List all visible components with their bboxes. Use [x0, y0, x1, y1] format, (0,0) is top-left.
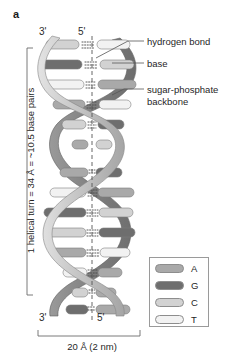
legend-swatch-g: [155, 281, 184, 290]
legend-label-g: G: [191, 281, 198, 291]
legend-label-c: C: [191, 298, 198, 308]
legend-swatch-c: [155, 298, 184, 307]
legend-swatch-a: [155, 264, 184, 273]
base-legend: A G C T: [149, 257, 209, 327]
legend-item-g: G: [155, 280, 207, 291]
legend-item-t: T: [155, 314, 207, 325]
legend-label-a: A: [191, 264, 197, 274]
legend-item-a: A: [155, 263, 207, 274]
label-hydrogen-bond: hydrogen bond: [147, 36, 210, 48]
legend-label-t: T: [191, 315, 197, 325]
strand-label-top-left: 3': [39, 26, 46, 37]
strand-label-bottom-left: 3': [39, 312, 46, 323]
helix-width-bracket: [38, 330, 140, 336]
label-sugar-phosphate-backbone: sugar-phosphate backbone: [147, 84, 235, 107]
legend-item-c: C: [155, 297, 207, 308]
strand-label-bottom-right: 5': [97, 312, 104, 323]
strand-label-top-right: 5': [78, 26, 85, 37]
label-base: base: [147, 58, 168, 70]
label-helical-turn: 1 helical turn = 34 Å = ~10.5 base pairs: [25, 46, 36, 296]
label-helix-width: 20 Å (2 nm): [34, 341, 150, 352]
dna-double-helix-figure: a: [0, 0, 235, 362]
legend-swatch-t: [155, 315, 184, 324]
